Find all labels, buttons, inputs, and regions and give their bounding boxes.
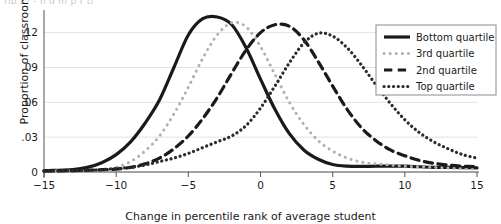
legend-label: 2nd quartile	[416, 65, 477, 76]
x-axis-label: Change in percentile rank of average stu…	[0, 210, 501, 223]
legend-label: Bottom quartile	[416, 32, 494, 43]
x-tick-marks	[44, 172, 477, 177]
y-tick-label: .03	[21, 131, 38, 143]
density-chart: 0.03.06.09.12 −15−10−5051015 Bottom quar…	[0, 0, 501, 224]
x-tick-label: 15	[470, 179, 483, 191]
x-tick-label: 0	[257, 179, 264, 191]
x-tick-labels: −15−10−5051015	[33, 179, 484, 191]
legend-box[interactable]: Bottom quartile3rd quartile2nd quartileT…	[376, 25, 496, 95]
legend-label: 3rd quartile	[416, 48, 474, 59]
y-axis-label: Proportion of classrooms	[18, 0, 31, 127]
x-tick-label: −10	[105, 179, 127, 191]
legend-label: Top quartile	[415, 81, 475, 92]
x-tick-label: −5	[181, 179, 196, 191]
x-tick-label: −15	[33, 179, 55, 191]
y-tick-label: 0	[31, 166, 38, 178]
x-tick-label: 5	[329, 179, 336, 191]
figure-container: rib f f ‑ h d m p r ti 0.03.06.09.12 −15…	[0, 0, 501, 224]
x-tick-label: 10	[398, 179, 411, 191]
